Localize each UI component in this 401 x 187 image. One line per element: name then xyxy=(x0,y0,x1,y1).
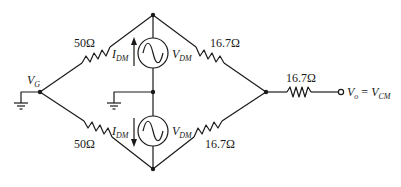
resistor-output xyxy=(266,87,338,97)
ac-source-top-icon xyxy=(138,38,168,68)
ground-left-icon xyxy=(14,92,40,109)
label-r-lower-right: 16.7Ω xyxy=(205,138,235,150)
resistor-lower-right xyxy=(153,92,266,169)
label-vdm-bottom: VDM xyxy=(172,125,192,140)
arrow-down-head-icon xyxy=(131,139,137,147)
label-r-upper-right: 16.7Ω xyxy=(210,37,240,49)
label-output: Vo = VCM xyxy=(347,86,390,101)
node-top xyxy=(151,13,155,17)
label-r-output: 16.7Ω xyxy=(286,72,316,84)
label-r-upper-left: 50Ω xyxy=(74,37,95,49)
ac-source-bottom-icon xyxy=(138,116,168,146)
label-r-lower-left: 50Ω xyxy=(74,138,95,150)
resistor-lower-left xyxy=(40,92,153,169)
label-vg: VG xyxy=(27,74,40,89)
node-vg xyxy=(38,90,42,94)
circuit-schematic xyxy=(0,0,401,187)
node-middle xyxy=(151,90,155,94)
node-right xyxy=(264,90,268,94)
resistor-upper-left xyxy=(40,15,153,92)
label-vdm-top: VDM xyxy=(172,48,192,63)
ground-middle-icon xyxy=(107,92,153,109)
label-idm-top: IDM xyxy=(112,48,128,63)
circuit-diagram: VG 50Ω 50Ω 16.7Ω 16.7Ω 16.7Ω IDM VDM IDM… xyxy=(0,0,401,187)
resistor-upper-right xyxy=(153,15,266,92)
label-idm-bottom: IDM xyxy=(112,125,128,140)
arrow-up-head-icon xyxy=(131,37,137,45)
node-bottom xyxy=(151,167,155,171)
output-terminal xyxy=(338,89,343,94)
